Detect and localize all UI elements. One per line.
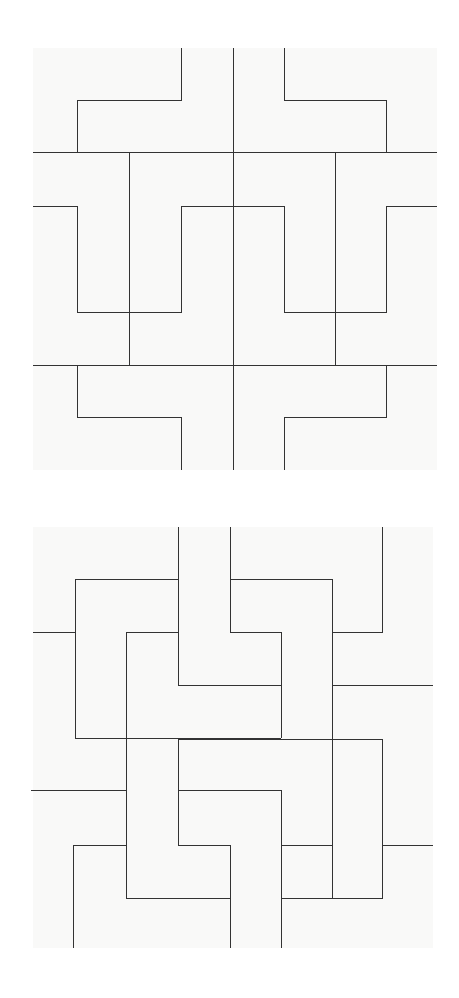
pinwheel-tiling-figure [0,0,459,998]
pinwheel-tiling-svg [0,0,459,998]
